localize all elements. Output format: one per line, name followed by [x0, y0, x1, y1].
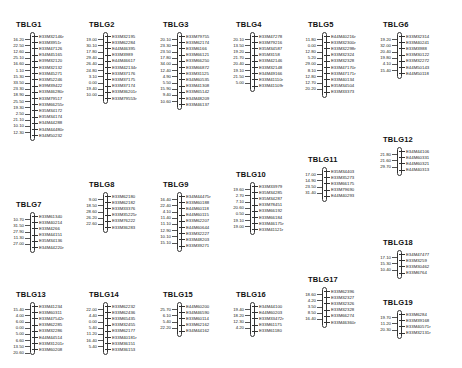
marker-tick: [105, 92, 111, 93]
marker-tick: [32, 42, 38, 43]
distance-label: 33.50: [2, 80, 24, 85]
distance-tick: [392, 160, 397, 161]
distance-label: 19.00: [75, 37, 97, 42]
distance-label: 12.80: [294, 74, 316, 79]
distance-label: 21.60: [369, 158, 391, 163]
distance-label: 11.20: [75, 331, 97, 336]
marker-label: E33M66250: [186, 58, 209, 63]
distance-tick: [245, 39, 250, 40]
distance-label: 0.00: [75, 80, 97, 85]
distance-label: 10.10: [149, 234, 171, 239]
distance-label: 18.50: [75, 203, 97, 208]
distance-tick: [172, 52, 177, 53]
marker-label: E33M62232: [112, 304, 135, 309]
distance-label: 6.10: [149, 313, 171, 318]
linkage-group-title: TBLG15: [163, 290, 193, 299]
marker-label: E34M50232: [39, 133, 62, 138]
marker-label: E34M44288: [39, 120, 62, 125]
distance-label: 20.60: [222, 205, 244, 210]
distance-tick: [25, 328, 30, 329]
distance-tick: [317, 45, 322, 46]
distance-label: 11.40: [149, 215, 171, 220]
marker-label: E35M34285: [259, 190, 282, 195]
marker-label: E33M66872: [186, 65, 209, 70]
linkage-group-title: TBLG16: [236, 290, 266, 299]
linkage-group-title: TBLG13: [16, 290, 46, 299]
marker-tick: [324, 183, 330, 184]
distance-tick: [25, 340, 30, 341]
linkage-group-title: TBLG12: [383, 135, 413, 144]
marker-label: E34M48209: [186, 96, 209, 101]
marker-tick: [252, 331, 258, 332]
distance-label: 19.20: [222, 49, 244, 54]
marker-tick: [32, 86, 38, 87]
distance-tick: [25, 76, 30, 77]
distance-tick: [172, 76, 177, 77]
distance-tick: [317, 187, 322, 188]
marker-tick: [324, 92, 330, 93]
marker-label: E34M44475r: [186, 194, 211, 199]
marker-label: E33M32314: [406, 34, 429, 39]
marker-label: E33M37174: [112, 83, 135, 88]
distance-tick: [98, 328, 103, 329]
distance-tick: [25, 64, 30, 65]
distance-tick: [98, 212, 103, 213]
marker-tick: [105, 349, 111, 350]
marker-label: E33M62396: [331, 289, 354, 294]
marker-label: E44M60644: [186, 225, 209, 230]
marker-tick: [179, 73, 185, 74]
distance-tick: [25, 58, 30, 59]
marker-label: E33M79553r: [112, 96, 137, 101]
marker-label: E33M79690: [331, 187, 354, 192]
distance-label: 4.90: [149, 74, 171, 79]
distance-tick: [25, 101, 30, 102]
marker-label: E33M66274: [331, 313, 354, 318]
distance-label: 9.40: [149, 92, 171, 97]
distance-label: 11.10: [149, 221, 171, 226]
marker-tick: [324, 61, 330, 62]
marker-tick: [252, 55, 258, 56]
marker-tick: [179, 202, 185, 203]
marker-label: E35M34136: [39, 238, 62, 243]
distance-label: 22.00: [75, 307, 97, 312]
distance-tick: [25, 219, 30, 220]
marker-label: E33M46280r: [39, 89, 64, 94]
distance-label: 10.10: [2, 123, 24, 128]
marker-tick: [179, 221, 185, 222]
chromosome-bar: [103, 302, 108, 355]
marker-tick: [32, 312, 38, 313]
marker-tick: [32, 110, 38, 111]
marker-label: E33M66121: [186, 52, 209, 57]
marker-tick: [179, 246, 185, 247]
marker-tick: [32, 135, 38, 136]
distance-tick: [245, 76, 250, 77]
marker-label: E33M41308: [186, 83, 209, 88]
distance-tick: [172, 39, 177, 40]
distance-label: 2.50: [2, 111, 24, 116]
distance-tick: [25, 315, 30, 316]
marker-tick: [252, 211, 258, 212]
distance-tick: [392, 58, 397, 59]
distance-label: 22.40: [149, 203, 171, 208]
distance-label: 31.40: [294, 190, 316, 195]
marker-label: E33M33373: [331, 89, 354, 94]
marker-label: E33M32227: [186, 231, 209, 236]
marker-label: E33M30122: [406, 52, 429, 57]
marker-tick: [399, 333, 405, 334]
distance-tick: [172, 243, 177, 244]
distance-label: 23.50: [149, 49, 171, 54]
marker-label: E33M32324: [331, 52, 354, 57]
marker-label: E34M45165: [39, 52, 62, 57]
marker-tick: [179, 36, 185, 37]
distance-label: 20.10: [149, 37, 171, 42]
distance-tick: [172, 205, 177, 206]
marker-label: E33M48203: [186, 237, 209, 242]
distance-tick: [317, 300, 322, 301]
linkage-group-title: TBLG14: [89, 290, 119, 299]
marker-tick: [105, 67, 111, 68]
marker-label: E33M62436: [112, 310, 135, 315]
distance-label: 4.20: [294, 298, 316, 303]
marker-label: E33M31201r: [39, 341, 64, 346]
distance-label: 3.50: [294, 304, 316, 309]
marker-tick: [399, 320, 405, 321]
